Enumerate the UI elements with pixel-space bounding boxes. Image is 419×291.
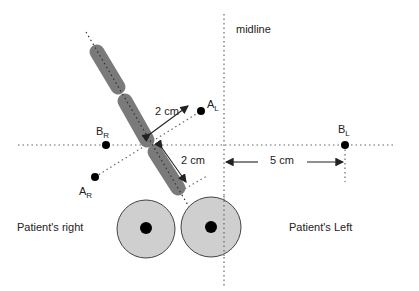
point-label-a-r: AR bbox=[79, 186, 92, 200]
point-a-r bbox=[91, 173, 99, 181]
distance-label-lower: 2 cm bbox=[181, 155, 205, 166]
midline-label: midline bbox=[236, 24, 271, 35]
eye-right-pupil bbox=[140, 222, 152, 234]
diagram-graphics bbox=[0, 0, 419, 291]
distance-label-upper: 2 cm bbox=[155, 106, 179, 117]
point-b-l bbox=[341, 141, 349, 149]
patient-right-label: Patient's right bbox=[17, 222, 83, 233]
point-b-r bbox=[102, 141, 110, 149]
distance-label-5cm: 5 cm bbox=[270, 155, 294, 166]
point-label-b-r: BR bbox=[96, 126, 109, 140]
point-label-a-l: AL bbox=[207, 99, 219, 113]
point-label-b-l: BL bbox=[338, 124, 350, 138]
eye-left-pupil bbox=[205, 221, 217, 233]
tube-segments bbox=[97, 52, 178, 188]
point-a-l bbox=[197, 107, 205, 115]
diagram-canvas: midline Patient's right Patient's Left 2… bbox=[0, 0, 419, 291]
patient-left-label: Patient's Left bbox=[289, 222, 352, 233]
